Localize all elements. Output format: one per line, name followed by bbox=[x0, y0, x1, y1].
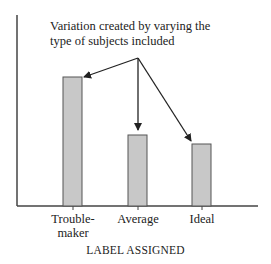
x-label-troublemaker: Trouble- maker bbox=[38, 212, 108, 240]
bar-troublemaker bbox=[63, 77, 82, 206]
x-axis-title: LABEL ASSIGNED bbox=[0, 244, 271, 256]
x-label-line: Trouble- bbox=[38, 212, 108, 226]
x-label-average: Average bbox=[103, 212, 173, 226]
x-label-line: Average bbox=[103, 212, 173, 226]
x-label-line: maker bbox=[38, 226, 108, 240]
x-label-ideal: Ideal bbox=[167, 212, 237, 226]
annotation-line-2: type of subjects included bbox=[50, 34, 270, 49]
annotation-line-1: Variation created by varying the bbox=[50, 19, 270, 34]
bar-ideal bbox=[192, 144, 211, 206]
arrow-to-ideal bbox=[138, 58, 191, 141]
x-label-line: Ideal bbox=[167, 212, 237, 226]
annotation-text: Variation created by varying the type of… bbox=[50, 19, 270, 49]
arrow-to-troublemaker bbox=[84, 58, 138, 77]
bar-average bbox=[128, 135, 147, 206]
